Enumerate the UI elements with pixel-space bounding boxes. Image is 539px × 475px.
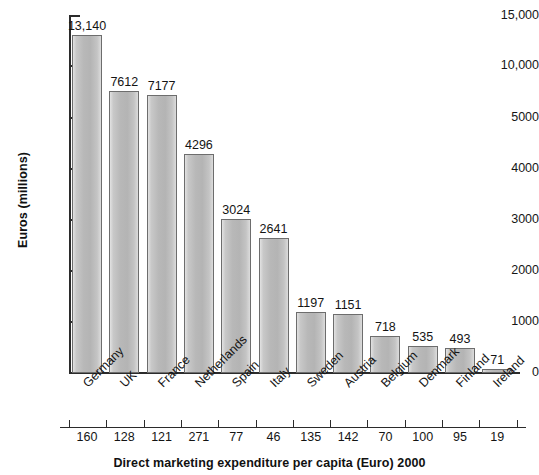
per-capita-value-denmark: 100	[403, 431, 443, 444]
y-tick-label-2000: 2000	[483, 264, 539, 277]
bar-value-finland: 493	[432, 333, 488, 346]
y-tick-label-1000: 1000	[483, 315, 539, 328]
x-axis-title: Direct marketing expenditure per capita …	[0, 456, 539, 470]
per-capita-value-belgium: 70	[365, 431, 405, 444]
y-tick-label-5000: 5000	[483, 111, 539, 124]
bar-value-france: 7177	[134, 80, 190, 93]
per-capita-tick-8	[367, 420, 368, 427]
bar-value-austria: 1151	[320, 299, 376, 312]
per-capita-value-uk: 128	[104, 431, 144, 444]
per-capita-tick-5	[256, 420, 257, 427]
per-capita-tick-4	[218, 420, 219, 427]
per-capita-tick-10	[442, 420, 443, 427]
per-capita-value-spain: 77	[216, 431, 256, 444]
bar-uk	[109, 91, 139, 373]
per-capita-tick-7	[330, 420, 331, 427]
bar-value-germany: 13,140	[59, 20, 115, 33]
y-axis-title: Euros (millions)	[16, 125, 30, 275]
per-capita-tick-end	[517, 420, 518, 427]
per-capita-value-austria: 142	[328, 431, 368, 444]
bar-chart: 01000200030004000500010,00015,000 Euros …	[0, 0, 539, 475]
per-capita-value-italy: 46	[254, 431, 294, 444]
per-capita-value-finland: 95	[440, 431, 480, 444]
per-capita-value-ireland: 19	[477, 431, 517, 444]
bar-netherlands	[184, 154, 214, 373]
per-capita-tick-11	[479, 420, 480, 427]
y-tick-label-10000: 10,000	[483, 59, 539, 72]
y-tick-label-4000: 4000	[483, 162, 539, 175]
per-capita-tick-6	[293, 420, 294, 427]
per-capita-value-netherlands: 271	[179, 431, 219, 444]
per-capita-tick-0	[69, 420, 70, 427]
y-tick-15000	[69, 15, 80, 17]
bar-value-italy: 2641	[246, 223, 302, 236]
bar-france	[147, 95, 177, 373]
per-capita-value-france: 121	[142, 431, 182, 444]
bar-value-netherlands: 4296	[171, 139, 227, 152]
y-tick-label-15000: 15,000	[483, 9, 539, 22]
y-axis-line	[69, 15, 71, 373]
per-capita-tick-9	[405, 420, 406, 427]
per-capita-value-germany: 160	[67, 431, 107, 444]
bar-value-spain: 3024	[208, 204, 264, 217]
per-capita-tick-1	[106, 420, 107, 427]
per-capita-tick-2	[144, 420, 145, 427]
per-capita-axis-line	[60, 427, 526, 428]
per-capita-tick-3	[181, 420, 182, 427]
y-tick-label-3000: 3000	[483, 213, 539, 226]
per-capita-value-sweden: 135	[291, 431, 331, 444]
